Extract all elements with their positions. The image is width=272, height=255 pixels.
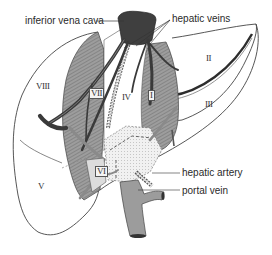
portal-vein	[120, 180, 164, 236]
label-portal-vein: portal vein	[182, 186, 228, 196]
portal-branch-cut-end	[161, 192, 164, 200]
label-inferior-vena-cava: inferior vena cava	[25, 16, 104, 26]
segment-label-viii: VIII	[36, 82, 50, 91]
portal-vein-cut-end	[130, 234, 146, 238]
segment-label-vi: VI	[95, 166, 108, 177]
segment-label-i: I	[148, 90, 155, 101]
segment-label-ii: II	[206, 54, 211, 63]
label-hepatic-veins: hepatic veins	[172, 14, 230, 24]
liver-diagram: inferior vena cava hepatic veins hepatic…	[0, 0, 272, 255]
segment-label-iv: IV	[122, 93, 131, 102]
label-hepatic-artery: hepatic artery	[182, 168, 243, 178]
segment-label-v: V	[38, 182, 44, 191]
segment-label-vii: VII	[89, 88, 104, 99]
segment-label-iii: III	[205, 100, 213, 109]
liver-illustration	[0, 0, 272, 255]
